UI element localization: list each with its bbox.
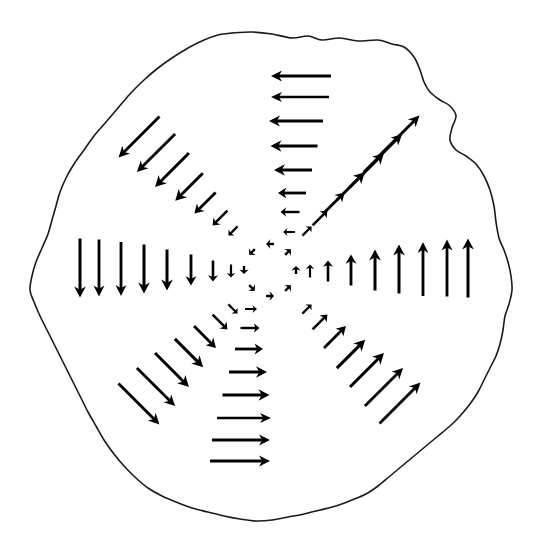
figure-canvas [0, 0, 533, 536]
vector-field-figure [0, 0, 533, 536]
